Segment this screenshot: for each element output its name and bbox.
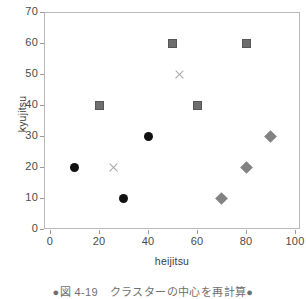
x-tick-mark <box>295 230 296 234</box>
x-tick-label: 0 <box>30 236 70 247</box>
x-tick-mark <box>99 230 100 234</box>
data-point-diamond <box>215 192 228 205</box>
data-point-square <box>95 101 104 110</box>
x-tick-label: 20 <box>79 236 119 247</box>
figure-caption: ●図 4-19 クラスターの中心を再計算● <box>0 283 306 299</box>
data-point-square <box>193 101 202 110</box>
x-tick-mark <box>246 230 247 234</box>
x-tick-mark <box>50 230 51 234</box>
y-tick-label: 30 <box>25 130 38 141</box>
data-point-x <box>174 69 185 80</box>
data-point-diamond <box>240 161 253 174</box>
data-point-circle <box>119 194 128 203</box>
x-tick-mark <box>148 230 149 234</box>
data-point-square <box>168 39 177 48</box>
y-tick-label: 50 <box>25 68 38 79</box>
plot-data-area <box>44 12 300 229</box>
y-tick-label: 60 <box>25 37 38 48</box>
data-point-circle <box>144 132 153 141</box>
x-tick-label: 100 <box>275 236 306 247</box>
data-point-circle <box>70 163 79 172</box>
y-tick-mark <box>40 229 44 230</box>
y-tick-label: 40 <box>25 99 38 110</box>
y-tick-label: 10 <box>25 192 38 203</box>
y-axis-title: kyujitsu <box>16 69 28 159</box>
y-tick-label: 70 <box>25 6 38 17</box>
x-tick-mark <box>197 230 198 234</box>
y-tick-label: 0 <box>32 223 38 234</box>
x-tick-label: 60 <box>177 236 217 247</box>
data-point-x <box>108 162 119 173</box>
x-tick-label: 40 <box>128 236 168 247</box>
scatter-plot-figure: kyujitsu heijitsu 010203040506070 020406… <box>0 0 306 299</box>
x-axis-title: heijitsu <box>44 255 300 267</box>
y-tick-label: 20 <box>25 161 38 172</box>
data-point-square <box>242 39 251 48</box>
data-point-diamond <box>264 130 277 143</box>
x-tick-label: 80 <box>226 236 266 247</box>
